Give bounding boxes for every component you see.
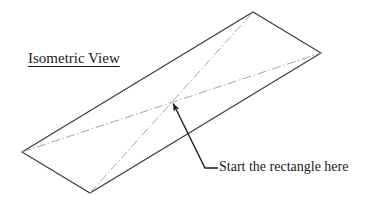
callout-leader-line xyxy=(173,104,218,169)
isometric-drawing-canvas: Isometric View Start the rectangle here xyxy=(0,0,370,202)
centerline-left-right-icon xyxy=(22,53,321,152)
callout-text-label: Start the rectangle here xyxy=(219,160,348,174)
view-title-label: Isometric View xyxy=(28,51,120,66)
